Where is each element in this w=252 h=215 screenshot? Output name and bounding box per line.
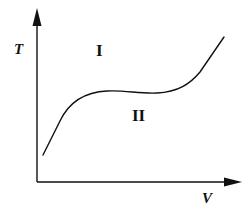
boundary-curve [43,37,224,155]
x-axis-label: V [202,190,214,206]
x-axis-arrow-icon [224,178,242,187]
region-label-1: I [96,41,103,60]
y-axis-arrow-icon [33,8,42,26]
tv-phase-diagram: T V I II [0,0,252,215]
region-label-2: II [132,106,146,125]
y-axis-label: T [14,41,24,57]
